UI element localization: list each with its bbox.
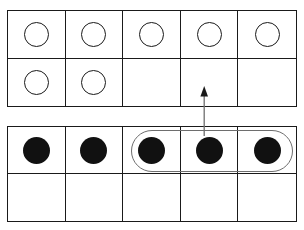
cell-r2-c3[interactable] bbox=[123, 59, 181, 107]
cell-r2-c1[interactable] bbox=[8, 174, 66, 221]
open-counter[interactable] bbox=[81, 70, 106, 95]
filled-counter[interactable] bbox=[138, 137, 165, 164]
filled-counter[interactable] bbox=[80, 137, 107, 164]
open-counter[interactable] bbox=[24, 70, 49, 95]
cell-r2-c1[interactable] bbox=[8, 59, 66, 107]
cell-r2-c5[interactable] bbox=[238, 59, 296, 107]
cell-r1-c4[interactable] bbox=[181, 127, 239, 174]
cell-r1-c4[interactable] bbox=[181, 11, 239, 59]
cell-r1-c2[interactable] bbox=[66, 127, 124, 174]
top-ten-frame bbox=[7, 10, 297, 107]
open-counter[interactable] bbox=[197, 22, 222, 47]
cell-r2-c2[interactable] bbox=[66, 174, 124, 221]
cell-r2-c3[interactable] bbox=[123, 174, 181, 221]
open-counter[interactable] bbox=[139, 22, 164, 47]
open-counter[interactable] bbox=[255, 22, 280, 47]
bottom-ten-frame bbox=[7, 126, 297, 222]
cell-r1-c1[interactable] bbox=[8, 127, 66, 174]
cell-r1-c3[interactable] bbox=[123, 11, 181, 59]
filled-counter[interactable] bbox=[254, 137, 281, 164]
cell-r2-c4[interactable] bbox=[181, 59, 239, 107]
filled-counter[interactable] bbox=[23, 137, 50, 164]
cell-r1-c2[interactable] bbox=[66, 11, 124, 59]
cell-r2-c2[interactable] bbox=[66, 59, 124, 107]
cell-r1-c5[interactable] bbox=[238, 127, 296, 174]
cell-r1-c5[interactable] bbox=[238, 11, 296, 59]
cell-r2-c4[interactable] bbox=[181, 174, 239, 221]
open-counter[interactable] bbox=[24, 22, 49, 47]
open-counter[interactable] bbox=[81, 22, 106, 47]
diagram-canvas bbox=[0, 0, 304, 230]
filled-counter[interactable] bbox=[196, 137, 223, 164]
cell-r1-c1[interactable] bbox=[8, 11, 66, 59]
cell-r2-c5[interactable] bbox=[238, 174, 296, 221]
cell-r1-c3[interactable] bbox=[123, 127, 181, 174]
